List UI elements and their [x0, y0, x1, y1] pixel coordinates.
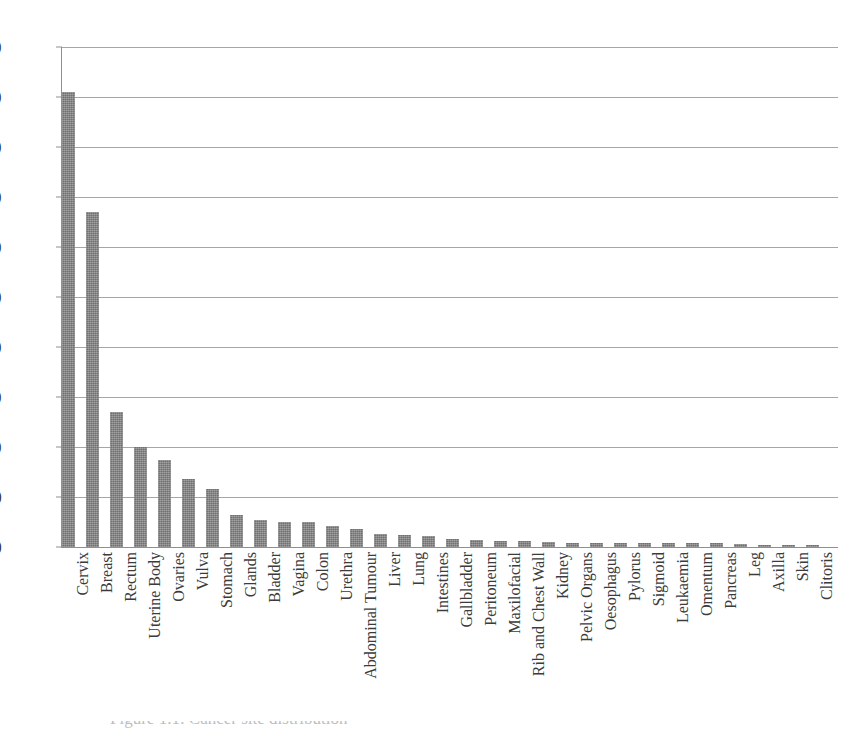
bar: [374, 534, 387, 547]
x-axis-label: Skin: [795, 552, 811, 581]
bar: [806, 545, 819, 547]
bar: [278, 522, 291, 547]
bar: [206, 489, 219, 547]
x-axis-label: Vulva: [195, 552, 211, 590]
x-axis-label: Stomach: [219, 552, 235, 608]
x-axis-label: Bladder: [267, 552, 283, 603]
bar: [758, 545, 771, 547]
y-tick-label-300: 300: [0, 238, 2, 257]
y-tick-label-50: 50: [0, 488, 2, 507]
y-tick-label-350: 350: [0, 188, 2, 207]
bar-chart: 500450400350300250200150100500 CervixBre…: [0, 0, 860, 739]
bar: [86, 212, 99, 547]
x-axis-label: Intestines: [435, 552, 451, 613]
x-axis-label: Abdominal Tumour: [363, 552, 379, 679]
x-axis-label: Ovaries: [171, 552, 187, 602]
x-axis-label: Cervix: [75, 552, 91, 596]
bar: [566, 543, 579, 547]
x-axis-label: Kidney: [555, 552, 571, 599]
bar: [62, 92, 75, 547]
bar: [518, 541, 531, 547]
x-axis-label: Pylorus: [627, 552, 643, 601]
y-tick-label-400: 400: [0, 138, 2, 157]
bar: [686, 543, 699, 547]
bar: [134, 447, 147, 547]
x-axis-label: Rib and Chest Wall: [531, 552, 547, 676]
bar: [590, 543, 603, 547]
x-axis-label: Omentum: [699, 552, 715, 616]
figure-caption: Figure 1.1: Cancer site distribution: [110, 721, 348, 729]
bar: [326, 526, 339, 547]
bar: [446, 539, 459, 547]
y-tick-label-500: 500: [0, 38, 2, 57]
x-axis-label: Leg: [747, 552, 763, 577]
x-axis-label: Maxilofacial: [507, 552, 523, 634]
bar: [422, 536, 435, 547]
y-tick-label-0: 0: [0, 538, 2, 557]
figure-caption-strip: Figure 1.1: Cancer site distribution: [0, 721, 860, 739]
bar: [182, 479, 195, 547]
bar: [710, 543, 723, 547]
y-tick-label-450: 450: [0, 88, 2, 107]
x-axis-label: Colon: [315, 552, 331, 591]
x-axis-label: Oesophagus: [603, 552, 619, 630]
y-tick-label-100: 100: [0, 438, 2, 457]
x-axis-label: Peritoneum: [483, 552, 499, 626]
bar: [662, 543, 675, 547]
x-axis-label: Lung: [411, 552, 427, 586]
x-axis-label: Pancreas: [723, 552, 739, 609]
bar: [350, 529, 363, 547]
y-tick-label-250: 250: [0, 288, 2, 307]
gridline-0: [62, 547, 838, 548]
bar: [230, 515, 243, 547]
bar: [302, 522, 315, 547]
bar: [494, 541, 507, 547]
bar: [734, 544, 747, 547]
x-axis-label: Rectum: [123, 552, 139, 602]
x-axis-label: Leukaemia: [675, 552, 691, 623]
x-axis-label: Pelvic Organs: [579, 552, 595, 642]
bar: [542, 542, 555, 547]
x-axis-label: Axilla: [771, 552, 787, 592]
x-axis-label: Urethra: [339, 552, 355, 601]
x-axis-label: Glands: [243, 552, 259, 597]
x-axis-label: Liver: [387, 552, 403, 587]
y-tick-label-150: 150: [0, 388, 2, 407]
x-axis-label: Clitoris: [819, 552, 835, 600]
bar: [398, 535, 411, 547]
x-axis-label: Sigmoid: [651, 552, 667, 606]
y-tick-label-200: 200: [0, 338, 2, 357]
y-axis-ticks: 500450400350300250200150100500: [0, 0, 62, 739]
bar: [782, 545, 795, 547]
bar: [110, 412, 123, 547]
bar: [254, 520, 267, 547]
x-axis-label: Vagina: [291, 552, 307, 596]
bar: [638, 543, 651, 547]
x-axis-label: Breast: [99, 552, 115, 593]
x-axis-labels: CervixBreastRectumUterine BodyOvariesVul…: [62, 552, 838, 702]
bars-layer: [62, 47, 838, 547]
bar: [614, 543, 627, 547]
bar: [158, 460, 171, 547]
bar: [470, 540, 483, 547]
x-axis-label: Uterine Body: [147, 552, 163, 639]
x-axis-label: Gallbladder: [459, 552, 475, 628]
